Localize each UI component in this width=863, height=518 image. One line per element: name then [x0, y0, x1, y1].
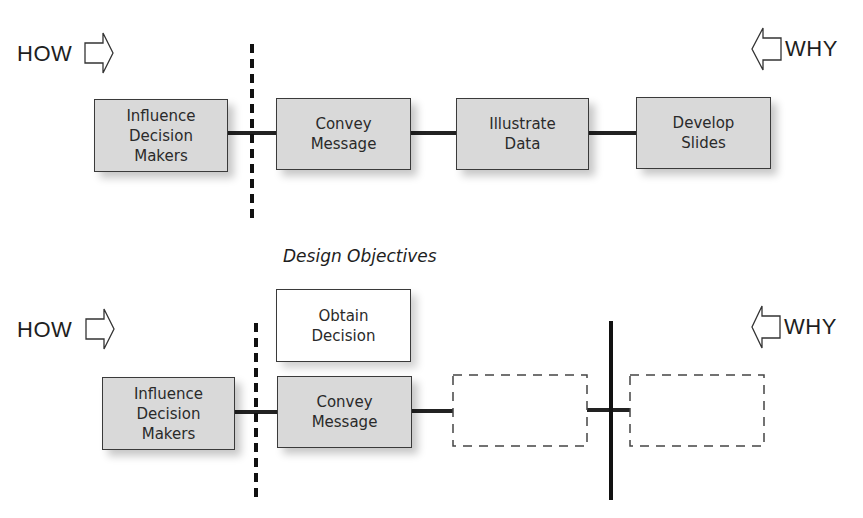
step-box-influence-decision-makers: Influence Decision Makers — [102, 377, 235, 450]
why-label: WHY — [785, 38, 838, 60]
section-title: Design Objectives — [283, 246, 437, 266]
step-box-influence-decision-makers: Influence Decision Makers — [94, 99, 228, 172]
step-box-illustrate-data: Illustrate Data — [456, 98, 589, 170]
step-box-convey-message: Convey Message — [276, 98, 411, 170]
step-box-label: Convey Message — [312, 392, 378, 432]
how-label: HOW — [17, 319, 72, 341]
diagram-canvas: HOW WHY Influence Decision Makers Convey… — [0, 0, 863, 518]
objective-box-obtain-decision: Obtain Decision — [276, 289, 411, 362]
step-box-label: Develop Slides — [673, 113, 735, 153]
why-label: WHY — [784, 316, 837, 338]
placeholder-box-outline — [630, 375, 764, 446]
step-box-label: Convey Message — [311, 114, 377, 154]
step-box-label: Influence Decision Makers — [134, 384, 203, 444]
how-arrow-icon — [86, 309, 114, 349]
step-box-convey-message: Convey Message — [277, 376, 412, 448]
how-arrow-icon — [85, 33, 113, 73]
why-arrow-icon — [752, 28, 781, 70]
step-box-label: Influence Decision Makers — [126, 106, 195, 166]
why-arrow-icon — [752, 306, 780, 348]
step-box-develop-slides: Develop Slides — [636, 97, 771, 169]
placeholder-box-outline — [453, 375, 587, 446]
step-box-label: Illustrate Data — [489, 114, 555, 154]
objective-box-label: Obtain Decision — [312, 306, 376, 346]
how-label: HOW — [17, 43, 72, 65]
